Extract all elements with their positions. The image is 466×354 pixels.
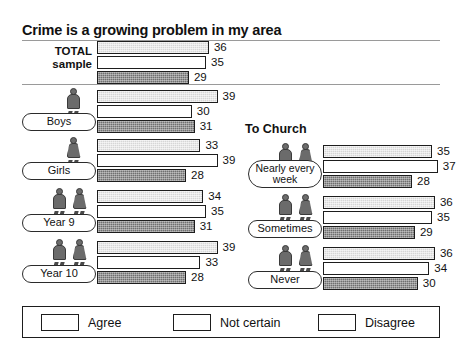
bar-notcertain bbox=[97, 154, 218, 167]
bar-value-notcertain: 33 bbox=[205, 255, 218, 269]
bar-notcertain bbox=[323, 262, 429, 275]
section-heading-to-church: To Church bbox=[245, 122, 307, 136]
people-icons bbox=[52, 239, 87, 261]
bar-value-disagree: 28 bbox=[191, 168, 204, 182]
bar-value-notcertain: 35 bbox=[211, 55, 224, 69]
person-female-icon bbox=[298, 245, 313, 267]
bar-value-disagree: 28 bbox=[191, 270, 204, 284]
bar-value-notcertain: 34 bbox=[434, 261, 447, 275]
bar-agree bbox=[323, 196, 435, 209]
bar-disagree bbox=[323, 175, 412, 188]
bar-agree bbox=[97, 139, 200, 152]
bar-disagree bbox=[97, 271, 186, 284]
bar-value-agree: 36 bbox=[214, 40, 227, 54]
bar-notcertain bbox=[97, 256, 200, 269]
bar-value-disagree: 29 bbox=[194, 70, 207, 84]
bar-notcertain bbox=[97, 205, 206, 218]
divider-under-title bbox=[22, 40, 440, 41]
person-male-icon bbox=[52, 188, 67, 210]
bar-disagree bbox=[97, 169, 186, 182]
bar-notcertain bbox=[97, 105, 192, 118]
bar-value-agree: 36 bbox=[440, 195, 453, 209]
bar-value-disagree: 31 bbox=[200, 219, 213, 233]
person-body bbox=[279, 200, 292, 215]
bar-value-notcertain: 35 bbox=[437, 210, 450, 224]
person-male-icon bbox=[66, 88, 81, 110]
bar-value-disagree: 31 bbox=[200, 119, 213, 133]
person-body bbox=[53, 245, 66, 260]
group-label-sometimes[interactable]: Sometimes bbox=[248, 220, 322, 238]
person-head bbox=[302, 143, 309, 150]
bar-agree bbox=[97, 90, 218, 103]
bar-disagree bbox=[97, 220, 195, 233]
bar-value-notcertain: 35 bbox=[211, 204, 224, 218]
bar-disagree bbox=[323, 277, 418, 290]
bar-value-agree: 39 bbox=[223, 89, 236, 103]
people-icons bbox=[66, 137, 81, 159]
bar-value-notcertain: 37 bbox=[443, 159, 456, 173]
person-body bbox=[67, 143, 81, 158]
bar-value-notcertain: 39 bbox=[223, 153, 236, 167]
person-body bbox=[73, 194, 87, 209]
person-female-icon bbox=[72, 188, 87, 210]
bar-disagree bbox=[323, 226, 415, 239]
bar-notcertain bbox=[323, 160, 438, 173]
bar-notcertain bbox=[97, 56, 206, 69]
chart-container: Crime is a growing problem in my area To… bbox=[0, 0, 466, 354]
bar-notcertain bbox=[323, 211, 432, 224]
group-label-total-sample: TOTAL sample bbox=[22, 45, 92, 70]
bar-agree bbox=[97, 241, 218, 254]
person-male-icon bbox=[52, 239, 67, 261]
person-body bbox=[53, 194, 66, 209]
bar-agree bbox=[323, 247, 435, 260]
bar-value-notcertain: 30 bbox=[197, 104, 210, 118]
people-icons bbox=[52, 188, 87, 210]
group-label-boys[interactable]: Boys bbox=[22, 113, 96, 131]
group-label-never[interactable]: Never bbox=[248, 271, 322, 289]
bar-value-disagree: 29 bbox=[420, 225, 433, 239]
person-female-icon bbox=[298, 194, 313, 216]
person-female-icon bbox=[66, 137, 81, 159]
person-male-icon bbox=[278, 245, 293, 267]
group-label-girls[interactable]: Girls bbox=[22, 162, 96, 180]
bar-disagree bbox=[97, 120, 195, 133]
person-body bbox=[279, 251, 292, 266]
bar-value-agree: 36 bbox=[440, 246, 453, 260]
bar-value-agree: 34 bbox=[208, 189, 221, 203]
bar-value-agree: 33 bbox=[205, 138, 218, 152]
person-male-icon bbox=[278, 194, 293, 216]
bar-value-agree: 39 bbox=[223, 240, 236, 254]
person-body bbox=[299, 251, 313, 266]
legend: Agree Not certain Disagree bbox=[22, 306, 440, 338]
person-head bbox=[70, 137, 77, 144]
person-female-icon bbox=[72, 239, 87, 261]
legend-label-not-certain: Not certain bbox=[220, 316, 280, 330]
bar-value-disagree: 30 bbox=[423, 276, 436, 290]
bar-value-disagree: 28 bbox=[417, 174, 430, 188]
people-icons bbox=[278, 194, 313, 216]
group-label-year-9[interactable]: Year 9 bbox=[22, 214, 96, 232]
legend-label-agree: Agree bbox=[88, 316, 121, 330]
person-body bbox=[67, 94, 80, 109]
people-icons bbox=[66, 88, 81, 110]
bar-value-agree: 35 bbox=[437, 144, 450, 158]
page-title: Crime is a growing problem in my area bbox=[22, 22, 281, 38]
legend-swatch-not-certain bbox=[173, 314, 211, 331]
bar-agree bbox=[323, 145, 432, 158]
person-body bbox=[73, 245, 87, 260]
bar-disagree bbox=[97, 71, 189, 84]
person-head bbox=[302, 245, 309, 252]
person-body bbox=[299, 200, 313, 215]
person-head bbox=[302, 194, 309, 201]
legend-swatch-agree bbox=[41, 314, 79, 331]
divider-under-total bbox=[22, 84, 440, 85]
legend-swatch-disagree bbox=[318, 314, 356, 331]
group-label-year-10[interactable]: Year 10 bbox=[22, 265, 96, 283]
bar-agree bbox=[97, 190, 203, 203]
group-label-nearly-every-week[interactable]: Nearly every week bbox=[248, 160, 322, 188]
person-head bbox=[76, 239, 83, 246]
bar-agree bbox=[97, 41, 209, 54]
legend-label-disagree: Disagree bbox=[365, 316, 415, 330]
people-icons bbox=[278, 245, 313, 267]
person-head bbox=[76, 188, 83, 195]
